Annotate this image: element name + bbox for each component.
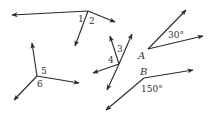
- angle-measure-a: 30°: [168, 30, 184, 40]
- angle-label-5: 5: [41, 66, 47, 76]
- angle-label-4: 4: [108, 55, 114, 65]
- figure-angles-1-2: 1 2: [12, 11, 115, 46]
- figure-angle-b: B 150°: [106, 66, 193, 110]
- vertex-label-b: B: [139, 66, 147, 77]
- angle-diagram: 1 2 3 4 5 6 A 30° B 150°: [0, 0, 214, 115]
- ray-down-left-arrow-icon: [106, 78, 144, 110]
- vertex-label-a: A: [137, 50, 145, 61]
- ray-right-arrow-icon: [37, 76, 79, 83]
- figure-angles-3-4: 3 4: [93, 34, 132, 90]
- angle-measure-b: 150°: [141, 84, 163, 94]
- angle-label-2: 2: [89, 16, 95, 26]
- ray-down-left-arrow-icon: [14, 76, 37, 100]
- angle-label-3: 3: [117, 44, 123, 54]
- figure-angle-a: A 30°: [137, 10, 203, 61]
- angle-label-6: 6: [37, 79, 43, 89]
- figure-angles-5-6: 5 6: [14, 43, 79, 100]
- ray-left-arrow-icon: [12, 11, 88, 15]
- ray-right-arrow-icon: [144, 70, 193, 78]
- ray-up-arrow-icon: [32, 43, 37, 76]
- angle-label-1: 1: [78, 14, 84, 24]
